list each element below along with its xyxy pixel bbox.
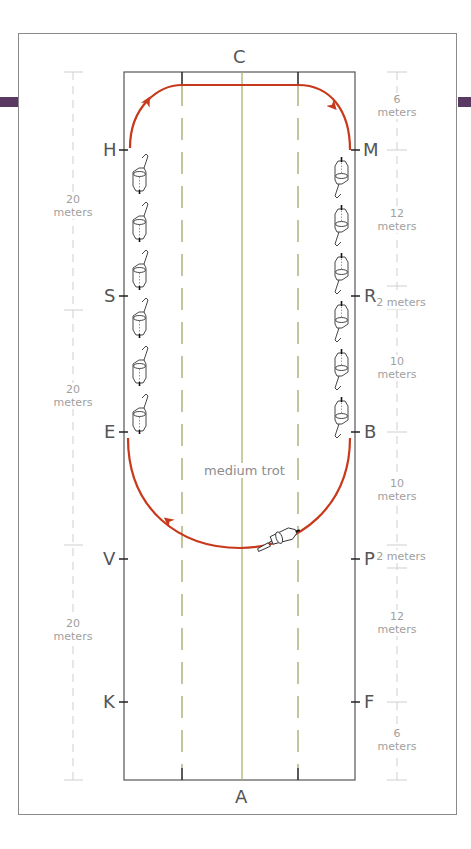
right-dimension-line [387, 72, 407, 780]
marker-c: C [233, 48, 246, 66]
right-dim-1: 6 meters [367, 93, 427, 119]
marker-b: B [364, 423, 376, 441]
dim-value: 20 [43, 193, 103, 206]
horses-left-track [133, 154, 148, 434]
horses-right-track [335, 157, 348, 438]
dim-unit: meters [367, 490, 427, 503]
marker-a: A [235, 788, 247, 806]
left-dimension-line [64, 72, 83, 780]
marker-s: S [104, 287, 115, 305]
marker-h: H [103, 141, 117, 159]
arena-border [124, 72, 355, 780]
left-dim-3: 20 meters [43, 617, 103, 643]
left-dim-1: 20 meters [43, 193, 103, 219]
left-dim-2: 20 meters [43, 383, 103, 409]
dim-value: 6 [367, 727, 427, 740]
dim-unit: meters [367, 623, 427, 636]
dim-value: 20 [43, 383, 103, 396]
dim-value: 2 meters [376, 550, 425, 563]
dim-unit: meters [43, 206, 103, 219]
path-medium-trot-circle [128, 438, 350, 548]
arena-diagram [0, 0, 471, 849]
right-dim-5: 10 meters [367, 477, 427, 503]
path-label-medium-trot: medium trot [202, 463, 287, 478]
marker-ticks [119, 150, 360, 702]
right-dim-8: 6 meters [367, 727, 427, 753]
right-dim-7: 12 meters [367, 610, 427, 636]
right-dim-3: 2 meters [371, 296, 431, 309]
right-dim-2: 12 meters [367, 207, 427, 233]
dim-unit: meters [43, 630, 103, 643]
marker-m: M [363, 141, 379, 159]
dim-value: 6 [367, 93, 427, 106]
dim-value: 20 [43, 617, 103, 630]
dim-value: 10 [367, 477, 427, 490]
horse-on-circle [255, 525, 302, 552]
right-dim-6: 2 meters [371, 550, 431, 563]
dim-unit: meters [367, 220, 427, 233]
marker-e: E [104, 423, 115, 441]
marker-k: K [103, 693, 115, 711]
dim-unit: meters [367, 740, 427, 753]
path-top-arc [130, 85, 350, 150]
dim-unit: meters [367, 368, 427, 381]
dim-value: 2 meters [376, 296, 425, 309]
marker-v: V [103, 550, 115, 568]
dim-value: 12 [367, 207, 427, 220]
dim-unit: meters [367, 106, 427, 119]
dim-value: 10 [367, 355, 427, 368]
dim-unit: meters [43, 396, 103, 409]
dim-value: 12 [367, 610, 427, 623]
right-dim-4: 10 meters [367, 355, 427, 381]
marker-f: F [364, 693, 374, 711]
